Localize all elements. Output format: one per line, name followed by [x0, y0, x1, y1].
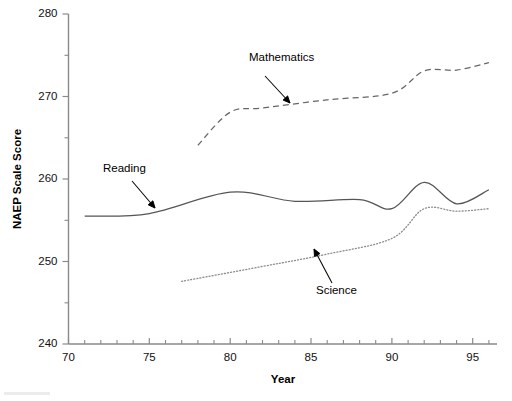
series-line-science [182, 207, 489, 281]
naep-scale-score-line-chart: 280270260250240 707580859095 NAEP Scale … [0, 0, 512, 401]
series-line-mathematics [198, 63, 489, 146]
x-axis-tick-labels: 707580859095 [62, 351, 479, 363]
chart-canvas: 280270260250240 707580859095 NAEP Scale … [0, 0, 512, 401]
y-tick-label: 280 [38, 7, 57, 19]
series-annotations: MathematicsReadingScience [103, 51, 357, 296]
x-tick-label: 70 [62, 351, 75, 363]
y-tick-label: 260 [38, 172, 57, 184]
y-tick-label: 240 [38, 337, 57, 349]
x-tick-label: 80 [224, 351, 237, 363]
y-axis-ticks [63, 14, 69, 344]
series-label-reading: Reading [103, 162, 146, 174]
plot-axes [69, 14, 498, 344]
x-tick-label: 90 [386, 351, 399, 363]
x-axis-ticks [69, 338, 489, 344]
y-tick-label: 270 [38, 90, 57, 102]
x-axis-title: Year [271, 373, 296, 385]
y-axis-tick-labels: 280270260250240 [38, 7, 57, 349]
x-tick-label: 95 [466, 351, 479, 363]
series-label-mathematics: Mathematics [249, 51, 314, 63]
x-tick-label: 85 [305, 351, 318, 363]
series-line-reading [85, 182, 489, 216]
y-axis-title: NAEP Scale Score [11, 129, 23, 229]
x-tick-label: 75 [143, 351, 156, 363]
page-artifact-strip [4, 392, 50, 395]
y-tick-label: 250 [38, 255, 57, 267]
series-label-science: Science [316, 284, 357, 296]
